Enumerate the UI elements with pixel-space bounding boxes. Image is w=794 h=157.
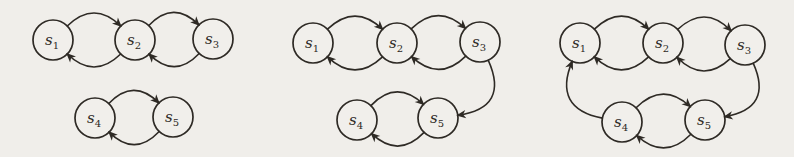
graph-right-edge-s1-to-s2: [594, 16, 648, 29]
graph-right-edge-s4-to-s5: [636, 94, 690, 108]
scanned-figure-page: s1s2s3s4s5s1s2s3s4s5s1s2s3s4s5: [0, 0, 794, 157]
graph-right-edge-s2-to-s1: [594, 57, 648, 70]
graph-middle-edge-s1-to-s2: [328, 16, 383, 29]
graph-left-edge-s4-to-s5: [109, 90, 159, 103]
graph-right-edge-s3-to-s5: [725, 63, 759, 116]
graph-left-edge-s2-to-s1: [67, 54, 120, 67]
graph-middle-edge-s3-to-s5: [458, 60, 495, 115]
graph-left-edge-s2-to-s3: [149, 12, 199, 25]
graph-right-edge-s3-to-s2: [677, 57, 730, 71]
state-transition-diagrams: s1s2s3s4s5s1s2s3s4s5s1s2s3s4s5: [0, 0, 794, 157]
graph-middle-edge-s3-to-s2: [412, 56, 466, 69]
graph-right-arrowhead-s5-to-s4: [636, 135, 646, 145]
graph-middle: s1s2s3s4s5: [293, 16, 500, 146]
graph-right-edge-s4-to-s1: [567, 61, 603, 118]
graph-left-edge-s5-to-s4: [109, 132, 159, 145]
graph-middle-edge-s4-to-s5: [371, 92, 424, 106]
graph-right-edge-s2-to-s3: [678, 17, 731, 31]
graph-right-edge-s5-to-s4: [637, 134, 691, 148]
graph-right-arrowhead-s4-to-s5: [682, 98, 692, 108]
graph-left: s1s2s3s4s5: [33, 12, 233, 144]
graph-middle-edge-s2-to-s1: [328, 57, 383, 70]
graph-left-edge-s3-to-s2: [149, 54, 199, 67]
graph-right: s1s2s3s4s5: [560, 16, 765, 148]
graph-left-edge-s1-to-s2: [67, 13, 120, 26]
graph-middle-edge-s2-to-s3: [411, 16, 465, 29]
graph-middle-edge-s5-to-s4: [372, 132, 425, 146]
